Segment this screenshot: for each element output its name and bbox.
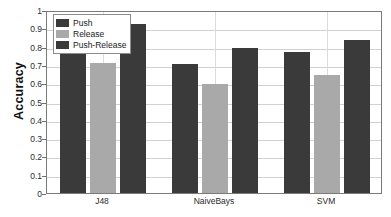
legend-swatch-icon — [56, 41, 69, 49]
y-axis-tick-label: 0.2 — [2, 153, 42, 161]
y-axis-tick-label: 0.4 — [2, 117, 42, 125]
legend-swatch-icon — [56, 30, 69, 38]
legend-item-push-release[interactable]: Push-Release — [56, 40, 126, 50]
bar-chart-figure: Accuracy 00.10.20.30.40.50.60.70.80.91 P… — [0, 0, 391, 217]
y-axis-tick-label: 1 — [2, 7, 42, 15]
legend-label: Push — [73, 19, 92, 28]
bar-naivebays-release — [202, 84, 228, 193]
plot-area: PushReleasePush-Release — [46, 11, 382, 194]
x-axis-tick-label-svm: SVM — [317, 196, 335, 206]
legend-label: Release — [73, 30, 104, 39]
legend: PushReleasePush-Release — [53, 14, 131, 54]
legend-swatch-icon — [56, 19, 69, 27]
y-axis-tick-label: 0.7 — [2, 62, 42, 70]
bar-svm-release — [314, 75, 340, 193]
bar-svm-push-release — [344, 40, 370, 193]
legend-item-push[interactable]: Push — [56, 18, 126, 28]
bar-j48-push — [60, 48, 86, 193]
y-axis-tick-labels: 00.10.20.30.40.50.60.70.80.91 — [0, 11, 44, 194]
y-axis-tick-label: 0.6 — [2, 80, 42, 88]
x-axis-tick-label-j48: J48 — [95, 196, 109, 206]
y-axis-tick-label: 0.5 — [2, 99, 42, 107]
bar-naivebays-push — [172, 64, 198, 193]
y-axis-tick-label: 0.8 — [2, 44, 42, 52]
x-axis-tick-label-naivebays: NaiveBays — [194, 196, 235, 206]
x-axis-tick-labels: J48NaiveBaysSVM — [46, 196, 382, 214]
legend-item-release[interactable]: Release — [56, 29, 126, 39]
bar-svm-push — [284, 52, 310, 193]
y-axis-tick-label: 0.3 — [2, 135, 42, 143]
y-axis-tick-label: 0 — [2, 190, 42, 198]
y-axis-tick-label: 0.1 — [2, 172, 42, 180]
y-axis-tick-mark — [42, 194, 46, 195]
y-axis-tick-label: 0.9 — [2, 25, 42, 33]
bar-j48-release — [90, 63, 116, 193]
legend-label: Push-Release — [73, 41, 126, 50]
bar-naivebays-push-release — [232, 48, 258, 193]
